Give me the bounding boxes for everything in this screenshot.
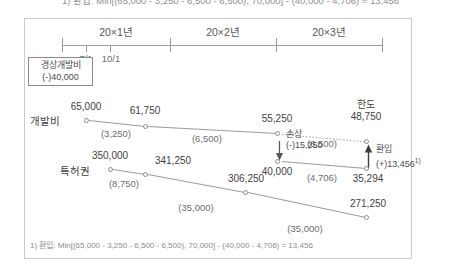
reversal-title: 환입 bbox=[376, 144, 421, 155]
node-dev-40000 bbox=[275, 159, 280, 164]
impairment-amount: (-)15,250 bbox=[286, 140, 323, 151]
node-dev-65000 bbox=[84, 118, 89, 123]
reversal-amount: (+)13,456 bbox=[376, 159, 415, 169]
row-label-patent: 특허권 bbox=[60, 163, 90, 178]
amortization-patent-35000-a: (35,000) bbox=[170, 202, 222, 213]
reversal-amount-wrap: (+)13,4561) bbox=[376, 155, 421, 170]
amortization-dev-6500: (6,500) bbox=[184, 133, 230, 144]
impairment-annotation: 손상 (-)15,250 bbox=[286, 129, 323, 151]
value-patent-341250: 341,250 bbox=[145, 155, 201, 166]
node-patent-350000 bbox=[108, 167, 113, 172]
amortization-dev-4706: (4,706) bbox=[299, 172, 345, 183]
impairment-title: 손상 bbox=[286, 129, 323, 140]
node-dev-limit-48750 bbox=[364, 139, 369, 144]
reversal-annotation: 환입 (+)13,4561) bbox=[376, 144, 421, 170]
limit-annotation: 한도 48,750 bbox=[340, 99, 392, 123]
reversal-footnote-marker: 1) bbox=[415, 157, 421, 164]
row-label-development-cost: 개발비 bbox=[30, 113, 60, 128]
amortization-patent-8750: (8,750) bbox=[101, 178, 147, 189]
limit-title: 한도 bbox=[340, 99, 392, 111]
node-dev-35294 bbox=[364, 166, 369, 171]
value-patent-271250: 271,250 bbox=[340, 198, 396, 209]
diagram-lines bbox=[0, 0, 461, 270]
node-patent-306250 bbox=[243, 190, 248, 195]
node-dev-55250 bbox=[275, 131, 280, 136]
limit-value: 48,750 bbox=[340, 111, 392, 123]
value-patent-350000: 350,000 bbox=[82, 150, 138, 161]
value-dev-35294: 35,294 bbox=[343, 173, 393, 184]
footnote-text: 1) 환입: Min[(65,000 - 3,250 - 6,500 - 6,5… bbox=[30, 239, 313, 250]
node-patent-271250 bbox=[364, 215, 369, 220]
value-dev-55250: 55,250 bbox=[252, 113, 302, 124]
amortization-dev-3250: (3,250) bbox=[93, 128, 139, 139]
node-patent-341250 bbox=[143, 172, 148, 177]
amortization-patent-35000-b: (35,000) bbox=[279, 223, 331, 234]
value-dev-65000: 65,000 bbox=[61, 101, 111, 112]
value-dev-61750: 61,750 bbox=[120, 105, 170, 116]
node-dev-61750 bbox=[143, 124, 148, 129]
value-patent-306250: 306,250 bbox=[218, 173, 274, 184]
